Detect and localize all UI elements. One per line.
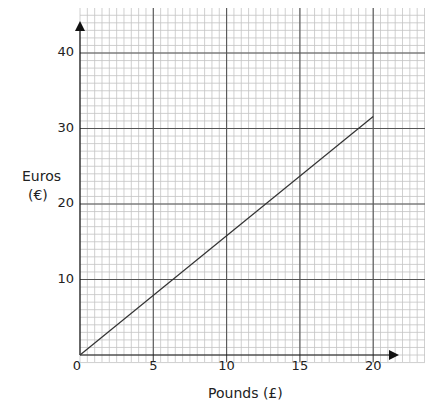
- y-tick-label: 40: [50, 44, 74, 59]
- x-tick-label: 0: [62, 358, 92, 373]
- y-axis-label-line2: (€): [28, 187, 48, 203]
- y-tick-label: 10: [50, 271, 74, 286]
- x-tick-label: 20: [358, 358, 388, 373]
- y-tick-label: 20: [50, 195, 74, 210]
- x-tick-label: 5: [138, 358, 168, 373]
- x-tick-label: 15: [285, 358, 315, 373]
- x-tick-label: 10: [212, 358, 242, 373]
- y-axis-label-line1: Euros: [22, 168, 61, 184]
- x-axis-label: Pounds (£): [208, 385, 283, 401]
- major-grid: [80, 8, 425, 362]
- y-tick-label: 30: [50, 120, 74, 135]
